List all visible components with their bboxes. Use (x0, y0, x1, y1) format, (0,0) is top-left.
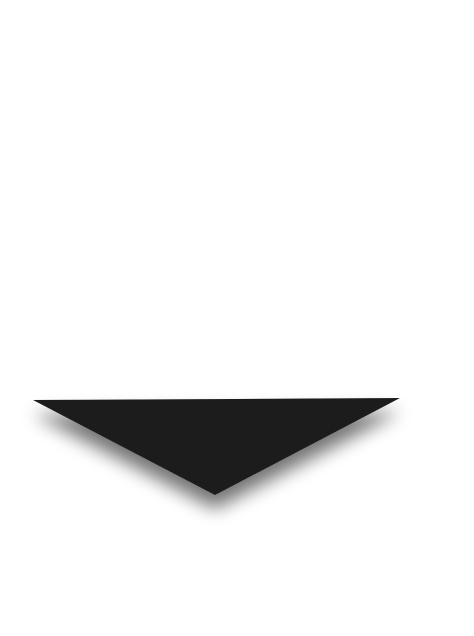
canvas (0, 0, 474, 636)
down-triangle-shape (33, 398, 400, 495)
down-arrow-icon (0, 0, 474, 636)
